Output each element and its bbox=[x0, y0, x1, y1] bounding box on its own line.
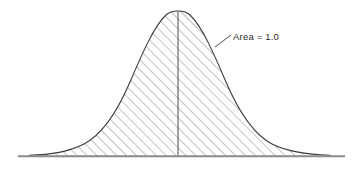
bell-curve-chart: Area = 1.0 bbox=[0, 0, 360, 172]
area-hatch-fill bbox=[0, 0, 360, 172]
shaded-area-group bbox=[0, 0, 360, 172]
annotation-leader-line bbox=[215, 35, 231, 47]
area-annotation-label: Area = 1.0 bbox=[233, 31, 279, 42]
normal-curve-figure: Area = 1.0 bbox=[0, 0, 360, 172]
